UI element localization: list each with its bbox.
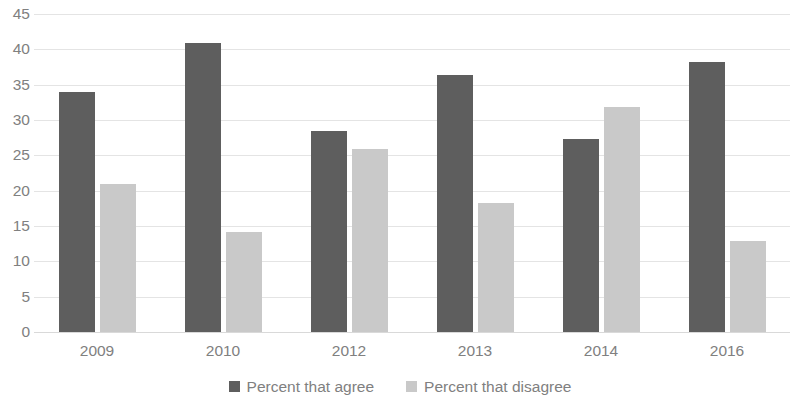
y-axis-tick-label: 40	[0, 42, 30, 58]
legend-label: Percent that agree	[247, 379, 375, 395]
legend-label: Percent that disagree	[424, 379, 571, 395]
y-axis-tick-labels: 051015202530354045	[0, 0, 30, 409]
bar-2009-agree	[59, 92, 95, 332]
y-axis-tick-label: 25	[0, 148, 30, 164]
y-axis-tick-label: 5	[0, 289, 30, 305]
legend-swatch-icon	[229, 381, 240, 392]
bar-2013-disagree	[478, 203, 514, 332]
bar-2016-agree	[689, 62, 725, 332]
x-axis-tick-label: 2009	[80, 341, 114, 361]
y-axis-tick-label: 10	[0, 254, 30, 270]
y-axis-tick-label: 15	[0, 218, 30, 234]
bar-2009-disagree	[100, 184, 136, 332]
x-axis-tick-label: 2012	[332, 341, 366, 361]
y-axis-tick-label: 45	[0, 6, 30, 22]
x-axis-tick-label: 2016	[710, 341, 744, 361]
y-axis-tick-label: 30	[0, 112, 30, 128]
x-axis-tick-labels: 200920102012201320142016	[34, 341, 790, 365]
bar-2010-disagree	[226, 232, 262, 332]
y-axis-tick-label: 35	[0, 77, 30, 93]
legend-item-agree[interactable]: Percent that agree	[229, 379, 375, 395]
y-axis-tick-label: 20	[0, 183, 30, 199]
chart-legend: Percent that agreePercent that disagree	[0, 379, 800, 395]
plot-area	[34, 14, 790, 332]
bar-2012-disagree	[352, 149, 388, 332]
x-axis-tick-label: 2014	[584, 341, 618, 361]
bar-2016-disagree	[730, 241, 766, 332]
bar-2010-agree	[185, 43, 221, 332]
bar-2014-agree	[563, 139, 599, 332]
bars-layer	[34, 14, 790, 332]
legend-swatch-icon	[406, 381, 417, 392]
legend-item-disagree[interactable]: Percent that disagree	[406, 379, 571, 395]
y-axis-tick-label: 0	[0, 324, 30, 340]
bar-2012-agree	[311, 131, 347, 332]
bar-chart: 051015202530354045 200920102012201320142…	[0, 0, 800, 409]
bar-2013-agree	[437, 75, 473, 332]
axis-baseline	[34, 332, 790, 333]
x-axis-tick-label: 2013	[458, 341, 492, 361]
x-axis-tick-label: 2010	[206, 341, 240, 361]
bar-2014-disagree	[604, 107, 640, 332]
